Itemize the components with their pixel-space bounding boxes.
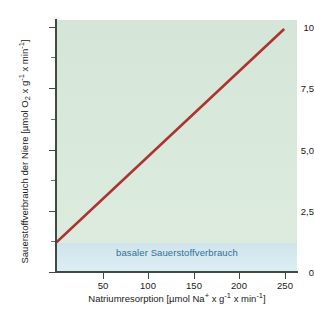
- x-tick-50: [103, 273, 104, 279]
- x-tick-label-150: 150: [174, 280, 214, 291]
- y-minor-tick-3-75: [51, 180, 55, 181]
- x-tick-label-250: 250: [265, 280, 305, 291]
- y-tick-7-5: [49, 88, 55, 89]
- y-minor-tick-1-25: [51, 241, 55, 242]
- y-axis-title-sup-g: -1: [17, 74, 26, 81]
- x-tick-label-100: 100: [128, 280, 168, 291]
- x-axis-title-sup-na: +: [205, 291, 209, 300]
- x-axis-title-sup-min: -1: [256, 291, 263, 300]
- x-tick-label-50: 50: [83, 280, 123, 291]
- oxygen-consumption-line: [57, 30, 283, 242]
- x-tick-100: [148, 273, 149, 279]
- x-axis-title-lead: Natriumresorption [µmol Na: [88, 293, 204, 304]
- x-tick-200: [239, 273, 240, 279]
- y-tick-label-5-0: 5,0: [268, 145, 314, 156]
- x-axis-title-mid2: x min: [231, 293, 256, 304]
- y-axis-title-lead: Sauerstoffverbrauch der Niere [µmol O: [19, 100, 30, 263]
- y-tick-5-0: [49, 150, 55, 151]
- y-axis-title: Sauerstoffverbrauch der Niere [µmol O2 x…: [19, 26, 30, 278]
- x-axis-title-tail: ]: [263, 293, 266, 304]
- y-axis-title-sup-min: -1: [17, 42, 26, 49]
- y-axis-title-sub-o2: 2: [23, 96, 32, 100]
- y-tick-label-2-5: 2,5: [268, 206, 314, 217]
- y-axis-line: [55, 19, 57, 273]
- y-axis-title-mid: x g: [19, 81, 30, 96]
- y-axis-title-mid2: x min: [19, 49, 30, 74]
- y-tick-10: [49, 27, 55, 28]
- x-axis-line: [55, 271, 298, 273]
- plot-area: basaler Sauerstoffverbrauch: [57, 20, 297, 272]
- data-line-svg: [57, 20, 297, 272]
- y-tick-label-10: 10: [268, 22, 314, 33]
- y-tick-label-7-5: 7,5: [268, 83, 314, 94]
- x-axis-title-sup-g: -1: [224, 291, 231, 300]
- y-tick-0: [49, 272, 55, 273]
- x-axis-title: Natriumresorption [µmol Na+ x g-1 x min-…: [57, 293, 297, 304]
- y-minor-tick-8-75: [51, 57, 55, 58]
- x-tick-label-200: 200: [219, 280, 259, 291]
- x-tick-250: [285, 273, 286, 279]
- x-axis-title-mid: x g: [209, 293, 224, 304]
- chart-figure: basaler Sauerstoffverbrauch 10 7,5 5,0 2…: [0, 0, 314, 314]
- y-minor-tick-6-25: [51, 119, 55, 120]
- y-tick-label-0: 0: [268, 267, 314, 278]
- x-tick-150: [194, 273, 195, 279]
- y-tick-2-5: [49, 211, 55, 212]
